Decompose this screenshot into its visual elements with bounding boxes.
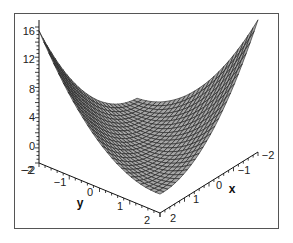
x-tick-label: 1 [193, 193, 199, 205]
z-tick-label: 12 [23, 53, 35, 65]
x-axis-title: x [229, 182, 236, 196]
z-tick-label: 8 [29, 83, 35, 95]
x-tick-label: −2 [262, 149, 275, 161]
y-tick-label: 2 [144, 214, 150, 226]
z-tick-label: 0 [29, 140, 35, 152]
y-tick-label: 0 [87, 186, 93, 198]
x-tick-label: 0 [216, 179, 222, 191]
y-tick-label: −2 [21, 164, 34, 176]
y-tick-label: −1 [54, 176, 67, 188]
z-tick-label: 4 [29, 111, 35, 123]
x-tick-label: 2 [170, 212, 176, 224]
z-tick-label: 16 [23, 25, 35, 37]
x-tick-label: −1 [238, 164, 251, 176]
y-axis-title: y [77, 196, 84, 210]
surface-plot: −2 0 4 8 12 16 −2 −1 0 1 2 y −2 −1 0 1 2… [0, 0, 293, 243]
y-tick-label: 1 [117, 200, 123, 212]
